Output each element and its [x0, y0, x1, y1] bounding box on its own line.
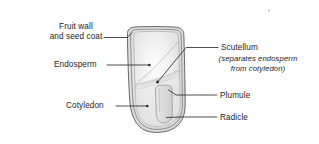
scan-artifact-speck [268, 9, 270, 12]
label-plumule: Plumule [220, 91, 250, 101]
label-radicle: Radicle [220, 113, 248, 123]
label-fruit-wall-line1: Fruit wall [59, 22, 93, 31]
label-scutellum-note-line1: (separates endosperm [219, 54, 298, 63]
label-cotyledon: Cotyledon [66, 101, 104, 111]
label-endosperm: Endosperm [54, 60, 97, 70]
label-scutellum-note-line2: from cotyledon) [200, 64, 316, 74]
label-scutellum-note: (separates endosperm from cotyledon) [200, 54, 316, 73]
leader-radicle [167, 117, 218, 118]
label-fruit-wall-and-seed-coat: Fruit wall and seed coat [34, 22, 118, 42]
label-scutellum: Scutellum [221, 43, 258, 53]
seed-diagram-figure: Fruit wall and seed coat Endosperm Cotyl… [0, 0, 319, 144]
label-fruit-wall-line2: and seed coat [50, 32, 103, 41]
